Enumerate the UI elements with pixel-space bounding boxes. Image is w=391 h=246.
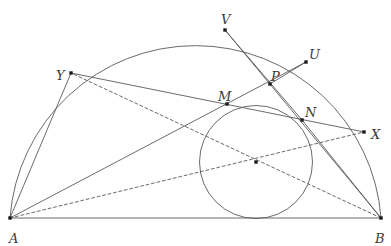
point-X: [362, 130, 365, 133]
point-A: [8, 216, 11, 219]
label-A: A: [9, 232, 18, 245]
point-I: [254, 160, 257, 163]
label-B: B: [375, 232, 385, 245]
label-U: U: [309, 48, 320, 61]
point-Y: [69, 71, 72, 74]
segment-AU: [10, 62, 306, 218]
segment-AY: [10, 73, 71, 218]
label-Y: Y: [56, 69, 65, 82]
label-N: N: [305, 106, 316, 119]
label-M: M: [218, 90, 231, 103]
point-V: [223, 28, 226, 31]
segment-BN: [302, 120, 381, 218]
segment-BV: [225, 30, 381, 218]
point-N: [300, 118, 303, 121]
label-X: X: [371, 128, 380, 141]
point-U: [304, 60, 307, 63]
label-V: V: [221, 13, 230, 26]
segments-group: [10, 30, 381, 218]
point-B: [379, 216, 382, 219]
label-P: P: [271, 70, 280, 83]
